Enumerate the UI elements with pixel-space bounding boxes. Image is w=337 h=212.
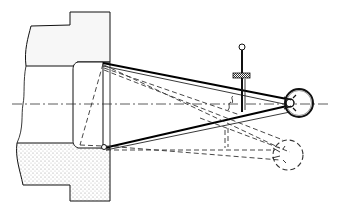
screw-ball-tip (239, 44, 245, 50)
dashed-pivot-ring (273, 140, 303, 170)
adjusting-screw (233, 44, 250, 112)
upper-arm (103, 63, 287, 104)
lower-workpiece-block (17, 143, 110, 201)
spring-mark (228, 96, 233, 110)
upper-workpiece-block (25, 12, 110, 66)
lower-arm (104, 106, 290, 150)
lower-pivot (102, 145, 107, 150)
knurled-nut (233, 73, 250, 78)
break-line-left (17, 66, 26, 143)
mechanical-diagram (0, 0, 337, 212)
alternate-position-dashed (104, 65, 303, 170)
pivot-ring (284, 89, 313, 117)
